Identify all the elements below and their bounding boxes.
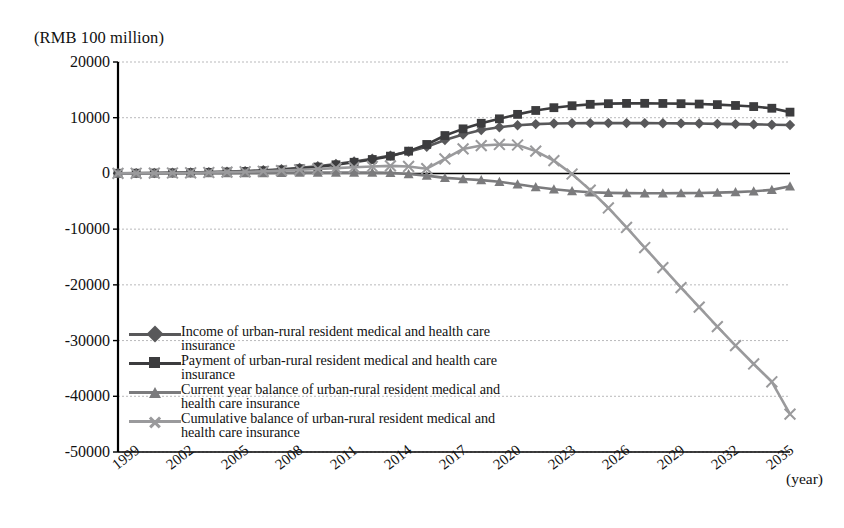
- square-marker: [767, 104, 776, 113]
- square-marker: [677, 99, 686, 108]
- series-line: [118, 123, 790, 173]
- x-marker: [730, 340, 741, 351]
- diamond-marker: [712, 119, 722, 129]
- x-marker: [785, 409, 796, 420]
- series-line: [118, 173, 790, 194]
- diamond-marker: [730, 119, 740, 129]
- square-marker: [531, 106, 540, 115]
- y-axis-tick-label: -30000: [10, 332, 110, 350]
- series-0: [113, 118, 795, 178]
- square-marker: [149, 357, 160, 368]
- square-marker: [459, 124, 468, 133]
- diamond-marker: [658, 118, 668, 128]
- diamond-marker: [676, 118, 686, 128]
- diamond-marker: [494, 122, 504, 132]
- x-marker: [676, 282, 687, 293]
- legend-item-label: Current year balance of urban-rural resi…: [181, 383, 529, 410]
- square-marker: [786, 108, 795, 117]
- triangle-marker: [149, 387, 161, 398]
- x-marker: [748, 359, 759, 370]
- diamond-marker: [694, 118, 704, 128]
- legend-item-label: Cumulative balance of urban-rural reside…: [181, 412, 529, 439]
- square-marker: [422, 140, 431, 149]
- square-marker: [568, 101, 577, 110]
- x-marker: [621, 222, 632, 233]
- y-axis-tick-label: 20000: [10, 53, 110, 71]
- legend-item-label: Income of urban-rural resident medical a…: [181, 325, 529, 352]
- x-axis-unit-label: (year): [786, 470, 823, 488]
- legend-marker-diamond-marker: [129, 326, 181, 342]
- square-marker: [658, 99, 667, 108]
- y-axis-tick-label: -40000: [10, 387, 110, 405]
- diamond-marker: [621, 118, 631, 128]
- x-marker: [548, 155, 559, 166]
- square-marker: [713, 100, 722, 109]
- y-axis-tick-label: -50000: [10, 443, 110, 461]
- diamond-marker: [767, 119, 777, 129]
- square-marker: [404, 147, 413, 156]
- square-marker: [386, 152, 395, 161]
- diamond-marker: [549, 118, 559, 128]
- x-marker: [440, 154, 451, 165]
- diamond-marker: [785, 120, 795, 130]
- legend-item: Current year balance of urban-rural resi…: [129, 383, 529, 412]
- chart-legend: Income of urban-rural resident medical a…: [129, 325, 529, 441]
- x-marker: [639, 242, 650, 253]
- legend-marker-square-marker: [129, 355, 181, 371]
- y-axis-tick-label: 0: [10, 164, 110, 182]
- x-marker: [148, 415, 161, 428]
- y-axis-tick-label: -20000: [10, 276, 110, 294]
- x-marker: [694, 302, 705, 313]
- legend-item: Income of urban-rural resident medical a…: [129, 325, 529, 354]
- square-marker: [695, 100, 704, 109]
- x-marker: [603, 203, 614, 214]
- diamond-marker: [585, 118, 595, 128]
- x-marker: [712, 321, 723, 332]
- diamond-marker: [512, 120, 522, 130]
- legend-item-label: Payment of urban-rural resident medical …: [181, 354, 529, 381]
- square-marker: [749, 102, 758, 111]
- x-marker: [657, 262, 668, 273]
- square-marker: [586, 100, 595, 109]
- diamond-marker: [603, 118, 613, 128]
- legend-marker-triangle-marker: [129, 384, 181, 400]
- diamond-marker: [748, 119, 758, 129]
- square-marker: [731, 101, 740, 110]
- square-marker: [640, 99, 649, 108]
- diamond-marker: [531, 119, 541, 129]
- legend-marker-x-marker: [129, 413, 181, 429]
- diamond-marker: [640, 118, 650, 128]
- y-axis-unit-label: (RMB 100 million): [34, 28, 164, 48]
- square-marker: [549, 103, 558, 112]
- square-marker: [441, 131, 450, 140]
- diamond-marker: [147, 326, 164, 343]
- legend-item: Payment of urban-rural resident medical …: [129, 354, 529, 383]
- x-marker: [766, 376, 777, 387]
- y-axis-tick-label: 10000: [10, 109, 110, 127]
- y-axis-tick-label: -10000: [10, 220, 110, 238]
- square-marker: [622, 99, 631, 108]
- square-marker: [604, 99, 613, 108]
- square-marker: [495, 114, 504, 123]
- legend-item: Cumulative balance of urban-rural reside…: [129, 412, 529, 441]
- square-marker: [513, 110, 522, 119]
- diamond-marker: [567, 118, 577, 128]
- square-marker: [477, 119, 486, 128]
